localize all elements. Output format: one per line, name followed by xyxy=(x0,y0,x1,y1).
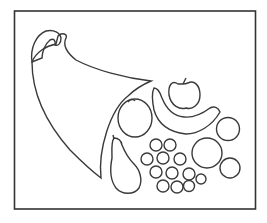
horn-curl xyxy=(32,30,61,62)
cornucopia-illustration xyxy=(0,0,267,223)
orange-stem xyxy=(128,100,135,102)
orange xyxy=(118,99,152,137)
round-fruit-large xyxy=(192,138,222,168)
horn xyxy=(32,34,151,178)
pear xyxy=(111,138,141,193)
round-fruit-right-top xyxy=(217,118,240,141)
grapes xyxy=(141,139,206,193)
apple xyxy=(169,82,200,108)
banana xyxy=(153,88,221,134)
pear-stem xyxy=(113,135,114,139)
round-fruit-right-bottom xyxy=(220,158,240,178)
